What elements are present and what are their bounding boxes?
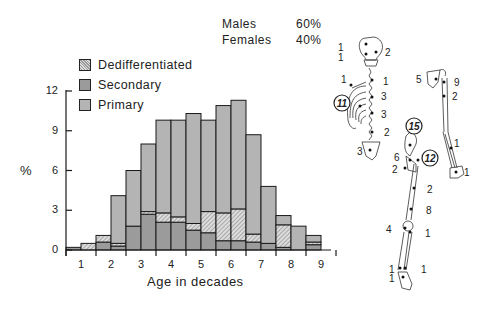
lesion-marker-dot xyxy=(371,79,374,82)
lesion-count-label: 1 xyxy=(464,167,470,178)
lesion-count-label: 5 xyxy=(416,74,422,85)
lesion-marker-dot xyxy=(365,53,368,56)
lesion-count-label: 2 xyxy=(392,164,398,175)
circled-count-label: 12 xyxy=(424,153,436,164)
lesion-count-label: 2 xyxy=(452,91,458,102)
lesion-marker-dot xyxy=(375,51,378,54)
lesion-marker-dot xyxy=(369,149,372,152)
lesion-count-label: 1 xyxy=(338,52,344,63)
lesion-marker-dot xyxy=(417,159,420,162)
lesion-count-label: 3 xyxy=(381,109,387,120)
lesion-marker-dot xyxy=(443,95,446,98)
lesion-marker-dot xyxy=(410,208,413,211)
lesion-count-label: 8 xyxy=(426,205,432,216)
foot-icon xyxy=(398,272,412,290)
lesion-marker-dot xyxy=(404,167,407,170)
lesion-count-label: 6 xyxy=(394,152,400,163)
lesion-count-label: 1 xyxy=(389,273,395,284)
lesion-marker-dot xyxy=(409,159,412,162)
lesion-marker-dot xyxy=(409,144,412,147)
circled-count-label: 11 xyxy=(337,98,348,109)
lesion-marker-dot xyxy=(371,96,374,99)
lesion-count-labels: 12111332359211622841111111512 xyxy=(334,42,470,284)
lesion-marker-dot xyxy=(371,131,374,134)
lesion-count-label: 1 xyxy=(425,228,431,239)
lesion-count-label: 9 xyxy=(454,77,460,88)
skull-icon xyxy=(359,37,382,60)
lesion-count-label: 2 xyxy=(384,127,390,138)
lesion-count-label: 1 xyxy=(383,76,389,87)
lesion-count-label: 1 xyxy=(454,138,460,149)
lesion-markers xyxy=(350,43,458,279)
skeleton-diagram: 12111332359211622841111111512 xyxy=(0,0,487,313)
lesion-marker-dot xyxy=(350,84,353,87)
lesion-marker-dot xyxy=(450,147,453,150)
lesion-marker-dot xyxy=(413,187,416,190)
lesion-marker-dot xyxy=(371,112,374,115)
lesion-count-label: 1 xyxy=(341,74,347,85)
scapula-icon xyxy=(427,70,440,88)
lesion-count-label: 2 xyxy=(427,184,433,195)
lesion-marker-dot xyxy=(443,81,446,84)
lesion-marker-dot xyxy=(409,231,412,234)
lesion-count-label: 1 xyxy=(421,264,427,275)
lesion-marker-dot xyxy=(404,267,407,270)
lesion-marker-dot xyxy=(402,276,405,279)
skeleton-outline xyxy=(348,37,464,290)
lesion-marker-dot xyxy=(435,78,438,81)
lesion-count-label: 3 xyxy=(357,146,363,157)
lesion-marker-dot xyxy=(359,105,362,108)
lesion-marker-dot xyxy=(455,171,458,174)
lesion-count-label: 4 xyxy=(386,224,392,235)
lesion-marker-dot xyxy=(404,227,407,230)
lesion-marker-dot xyxy=(399,267,402,270)
lesion-count-label: 3 xyxy=(381,91,387,102)
lesion-count-label: 2 xyxy=(385,47,391,58)
circled-count-label: 15 xyxy=(408,121,420,132)
lesion-marker-dot xyxy=(365,43,368,46)
